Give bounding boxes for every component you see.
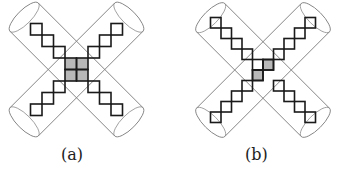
shaded-cell	[263, 60, 274, 71]
panel-label-b: (b)	[245, 145, 268, 164]
cylinder-cap-outer	[192, 108, 225, 141]
lattice-cell	[284, 91, 295, 102]
lattice-cell	[42, 35, 54, 47]
shaded-cell	[65, 58, 77, 70]
cylinder-edge	[197, 32, 302, 137]
cylinder-cap-inner	[296, 103, 329, 136]
lattice-cell	[221, 102, 232, 113]
shaded-cell	[77, 70, 89, 82]
cylinder-cap-outer	[115, 108, 148, 141]
lattice-cell	[111, 24, 123, 36]
lattice-cell	[31, 104, 43, 116]
lattice-cell	[232, 39, 243, 50]
lattice-cell	[221, 28, 232, 39]
lattice-cell	[54, 47, 66, 59]
panel-label-a: (a)	[61, 145, 83, 164]
cylinder-cap-inner	[110, 3, 143, 36]
cylinder-cap-outer	[5, 0, 38, 31]
lattice-cell	[42, 93, 54, 105]
x-shaped-cylinders-diagram-a	[0, 0, 168, 190]
cylinder-cap-inner	[296, 4, 329, 37]
cylinder-cap-outer	[301, 108, 334, 141]
shaded-cell	[65, 70, 77, 82]
lattice-cell	[295, 102, 306, 113]
cylinder-edge	[197, 4, 302, 109]
cylinder-cap-outer	[115, 0, 148, 31]
lattice-cell	[100, 93, 112, 105]
lattice-cell	[88, 47, 100, 59]
lattice-cell	[100, 35, 112, 47]
cylinder-cap-inner	[10, 103, 43, 136]
panel-a: (a)	[0, 0, 168, 190]
shaded-cell	[77, 58, 89, 70]
lattice-cell	[232, 91, 243, 102]
lattice-cell	[111, 104, 123, 116]
lattice-cell	[54, 81, 66, 93]
cylinder-cap-outer	[5, 108, 38, 141]
cylinder-edge	[225, 32, 330, 137]
cylinder-cap-inner	[10, 3, 43, 36]
cylinder-cap-inner	[110, 103, 143, 136]
panel-b: (b)	[168, 0, 337, 190]
lattice-cell	[284, 39, 295, 50]
cylinder-cap-outer	[192, 0, 225, 32]
lattice-cell	[31, 24, 43, 36]
lattice-cell	[295, 28, 306, 39]
shaded-cell	[253, 70, 264, 81]
lattice-cell	[88, 81, 100, 93]
cylinder-cap-outer	[301, 0, 334, 32]
cylinder-cap-inner	[197, 4, 230, 37]
lattice-cell	[253, 60, 264, 71]
cylinder-cap-inner	[197, 103, 230, 136]
cylinder-edge	[225, 4, 330, 109]
